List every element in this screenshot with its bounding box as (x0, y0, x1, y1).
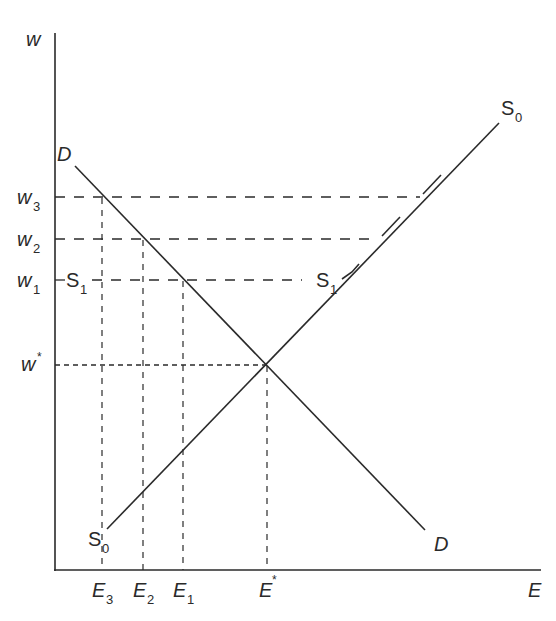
svg-text:0: 0 (515, 110, 522, 125)
demand-label-top: D (57, 143, 71, 165)
y-axis-label: w (26, 28, 42, 50)
s0-label-top: S 0 (501, 97, 522, 125)
svg-text:E: E (133, 579, 147, 601)
svg-text:w: w (17, 269, 33, 291)
supply-curve-s1-segment (342, 175, 441, 279)
E2-label: E 2 (133, 579, 154, 607)
Estar-label: E * (259, 573, 277, 601)
svg-text:w: w (21, 353, 37, 375)
svg-text:3: 3 (106, 592, 113, 607)
svg-text:*: * (272, 573, 277, 587)
E3-label: E 3 (92, 579, 113, 607)
svg-text:1: 1 (187, 592, 194, 607)
svg-text:1: 1 (33, 282, 40, 297)
svg-text:S: S (316, 269, 329, 291)
wage-level-guides (55, 197, 420, 365)
svg-text:2: 2 (147, 592, 154, 607)
s0-label-bottom: S 0 (88, 528, 109, 556)
svg-text:1: 1 (330, 282, 337, 297)
w3-label: w 3 (17, 186, 40, 214)
svg-text:w: w (17, 186, 33, 208)
employment-level-guides (102, 198, 267, 570)
svg-text:S: S (501, 97, 514, 119)
s1-label-right: S 1 (316, 269, 337, 297)
svg-text:1: 1 (80, 282, 87, 297)
demand-label-bottom: D (434, 533, 448, 555)
wstar-label: w * (21, 350, 42, 375)
svg-text:*: * (37, 350, 42, 364)
svg-text:E: E (259, 579, 273, 601)
supply-curve-s0 (107, 123, 499, 529)
svg-text:S: S (88, 528, 101, 550)
x-axis-label: E (528, 579, 542, 601)
svg-text:3: 3 (33, 199, 40, 214)
s1-label-left: S 1 (66, 269, 87, 297)
demand-curve (75, 166, 425, 530)
svg-text:w: w (17, 228, 33, 250)
labor-market-diagram: w E D D S 0 S 0 S 1 S 1 w 3 w 2 w 1 w * … (0, 0, 556, 621)
svg-text:E: E (173, 579, 187, 601)
svg-text:E: E (92, 579, 106, 601)
svg-text:2: 2 (33, 241, 40, 256)
E1-label: E 1 (173, 579, 194, 607)
svg-text:0: 0 (102, 541, 109, 556)
w2-label: w 2 (17, 228, 40, 256)
w1-label: w 1 (17, 269, 40, 297)
svg-text:S: S (66, 269, 79, 291)
